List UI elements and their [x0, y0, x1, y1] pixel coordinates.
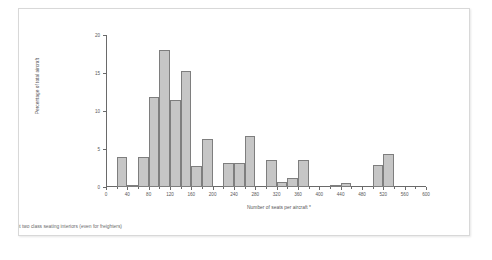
- x-axis-tick-label: 240: [224, 192, 244, 197]
- histogram-bar: [170, 100, 181, 187]
- chart-page: 05101520 0408012016020024028032036040044…: [0, 0, 492, 260]
- x-axis-tick-minor: [415, 187, 416, 189]
- histogram-bar: [127, 185, 138, 187]
- histogram-bar: [138, 157, 149, 187]
- x-axis-tick-label: 200: [203, 192, 223, 197]
- figure-frame: 05101520 0408012016020024028032036040044…: [18, 8, 470, 236]
- x-axis-tick-label: 120: [160, 192, 180, 197]
- x-axis-tick-label: 480: [352, 192, 372, 197]
- x-axis-tick-major: [255, 187, 256, 190]
- x-axis-tick-major: [106, 187, 107, 190]
- x-axis-tick-label: 40: [117, 192, 137, 197]
- x-axis-tick-major: [170, 187, 171, 190]
- y-axis-tick-label: 10: [82, 109, 100, 114]
- x-axis-tick-major: [277, 187, 278, 190]
- histogram-bar: [223, 163, 234, 187]
- x-axis-tick-major: [298, 187, 299, 190]
- x-axis-tick-major: [127, 187, 128, 190]
- y-axis-tick-label: 15: [82, 71, 100, 76]
- histogram-bar: [341, 183, 352, 187]
- x-axis-tick-minor: [330, 187, 331, 189]
- histogram-bar: [245, 136, 256, 187]
- histogram-bar: [149, 97, 160, 187]
- x-axis-tick-label: 440: [331, 192, 351, 197]
- histogram-bar: [330, 185, 341, 187]
- x-axis-tick-minor: [138, 187, 139, 189]
- x-axis-tick-label: 360: [288, 192, 308, 197]
- y-axis-tick-label: 20: [82, 33, 100, 38]
- x-axis-tick-minor: [309, 187, 310, 189]
- x-axis-tick-minor: [245, 187, 246, 189]
- histogram-bar: [181, 71, 192, 187]
- x-axis-tick-label: 320: [267, 192, 287, 197]
- histogram-bar: [383, 154, 394, 187]
- footnote-area: quivalent two class seating interiors (e…: [19, 223, 471, 235]
- x-axis-tick-label: 0: [96, 192, 116, 197]
- x-axis-tick-minor: [266, 187, 267, 189]
- x-axis-tick-label: 400: [309, 192, 329, 197]
- histogram-bar: [298, 160, 309, 187]
- histogram-bar: [277, 182, 288, 187]
- x-axis-tick-minor: [287, 187, 288, 189]
- x-axis-tick-major: [362, 187, 363, 190]
- x-axis-tick-minor: [373, 187, 374, 189]
- y-axis-tick-label: 0: [82, 185, 100, 190]
- x-axis-tick-minor: [351, 187, 352, 189]
- x-axis-tick-major: [405, 187, 406, 190]
- histogram-plot: 05101520 0408012016020024028032036040044…: [19, 9, 471, 237]
- histogram-bar: [202, 139, 213, 187]
- y-axis-tick-label: 5: [82, 147, 100, 152]
- x-axis-tick-major: [341, 187, 342, 190]
- x-axis-tick-label: 80: [139, 192, 159, 197]
- x-axis-tick-major: [213, 187, 214, 190]
- x-axis-tick-label: 560: [395, 192, 415, 197]
- x-axis-tick-major: [191, 187, 192, 190]
- x-axis-tick-minor: [394, 187, 395, 189]
- x-axis-tick-minor: [202, 187, 203, 189]
- histogram-bar: [191, 166, 202, 187]
- x-axis-tick-label: 520: [373, 192, 393, 197]
- histogram-bar: [287, 178, 298, 187]
- x-axis-tick-minor: [159, 187, 160, 189]
- histogram-bar: [159, 50, 170, 187]
- histogram-bar: [117, 157, 128, 187]
- x-axis-tick-minor: [223, 187, 224, 189]
- x-axis-tick-minor: [181, 187, 182, 189]
- x-axis-tick-major: [426, 187, 427, 190]
- x-axis-tick-label: 600: [416, 192, 436, 197]
- x-axis-tick-major: [319, 187, 320, 190]
- x-axis-tick-minor: [117, 187, 118, 189]
- histogram-bar: [373, 165, 384, 187]
- histogram-bar: [266, 160, 277, 187]
- x-axis-tick-label: 280: [245, 192, 265, 197]
- x-axis-title: Number of seats per aircraft *: [179, 205, 379, 211]
- x-axis-tick-major: [383, 187, 384, 190]
- x-axis-tick-major: [149, 187, 150, 190]
- histogram-bars: [106, 35, 426, 187]
- x-axis-tick-major: [234, 187, 235, 190]
- footnote-text: quivalent two class seating interiors (e…: [19, 223, 331, 230]
- x-axis-tick-label: 160: [181, 192, 201, 197]
- histogram-bar: [234, 163, 245, 187]
- y-axis-title: Percentage of total aircraft: [35, 26, 41, 146]
